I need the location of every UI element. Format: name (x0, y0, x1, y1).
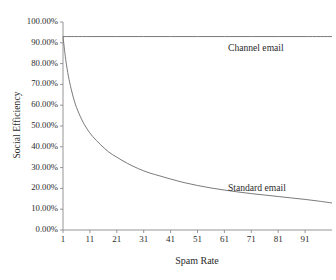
y-axis-tick-label: 10.00% (0, 203, 63, 213)
x-axis-tick-label: 41 (156, 234, 186, 244)
y-axis-tick-label: 70.00% (0, 78, 63, 88)
y-axis-tick-label: 40.00% (0, 141, 63, 151)
y-axis-tick-label: 50.00% (0, 120, 63, 130)
x-axis-tick-label: 61 (209, 234, 239, 244)
x-axis-tick-label: 1 (48, 234, 78, 244)
x-axis-tick-label: 21 (102, 234, 132, 244)
y-axis-tick-label: 90.00% (0, 37, 63, 47)
x-axis-tick-label: 51 (183, 234, 213, 244)
x-axis-tick-label: 81 (263, 234, 293, 244)
y-axis-tick-label: 80.00% (0, 58, 63, 68)
chart-container: 0.00%10.00%20.00%30.00%40.00%50.00%60.00… (0, 0, 336, 280)
x-axis-tick-label: 91 (290, 234, 320, 244)
y-axis-tick-label: 30.00% (0, 162, 63, 172)
x-axis-tick-label: 31 (129, 234, 159, 244)
series-line-standard-email (63, 37, 332, 203)
y-axis-tick-label: 60.00% (0, 99, 63, 109)
y-axis-tick-label: 0.00% (0, 224, 63, 234)
y-axis-tick-label: 20.00% (0, 182, 63, 192)
x-axis-title: Spam Rate (63, 255, 331, 266)
series-label-channel-email: Channel email (228, 42, 284, 53)
y-axis-tick-label: 100.00% (0, 16, 63, 26)
x-axis-tick-label: 11 (75, 234, 105, 244)
y-axis-title: Social Efficiency (12, 70, 22, 180)
axes-group (63, 22, 332, 230)
x-axis-tick-label: 71 (236, 234, 266, 244)
series-label-standard-email: Standard email (228, 182, 286, 193)
